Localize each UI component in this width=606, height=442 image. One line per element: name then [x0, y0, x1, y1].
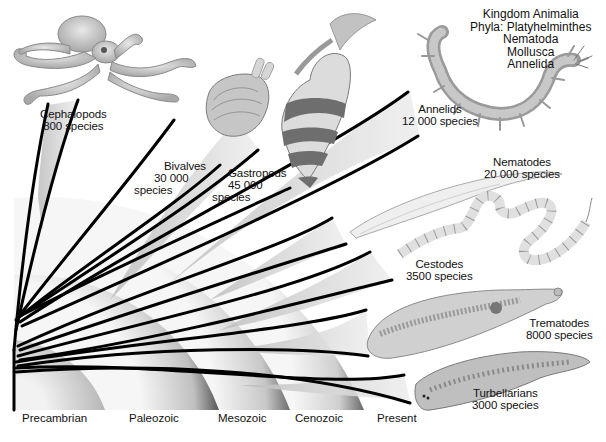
- era-cenozoic: Cenozoic: [295, 412, 343, 424]
- cestodes-label: Cestodes 3500 species: [406, 258, 473, 282]
- annelids-label: Annelids 12 000 species: [402, 103, 478, 127]
- title-block: Kingdom Animalia Phyla: Platyhelminthes …: [470, 8, 591, 71]
- phylum-annelida: Annelida: [470, 58, 591, 71]
- era-paleozoic: Paleozoic: [129, 412, 179, 424]
- gastropods-label: Gastropods 45 000 species: [212, 167, 286, 203]
- phylum-nematoda: Nematoda: [470, 33, 591, 46]
- era-mesozoic: Mesozoic: [218, 412, 267, 424]
- cephalopods-label: Cephalopods 800 species: [40, 108, 107, 132]
- octopus-eye: [101, 47, 107, 53]
- turbellarians-label: Turbellarians 3000 species: [472, 387, 539, 411]
- era-present: Present: [377, 412, 417, 424]
- clam-illustration: [206, 57, 275, 136]
- kingdom-label: Kingdom Animalia: [470, 8, 591, 21]
- phylogeny-diagram: Kingdom Animalia Phyla: Platyhelminthes …: [0, 0, 606, 442]
- bivalves-label: Bivalves 30 000 species: [134, 160, 206, 196]
- nematodes-label: Nematodes 20 000 species: [484, 156, 560, 180]
- trematodes-label: Trematodes 8000 species: [526, 317, 593, 341]
- era-precambrian: Precambrian: [22, 412, 87, 424]
- octopus-illustration: [14, 16, 196, 104]
